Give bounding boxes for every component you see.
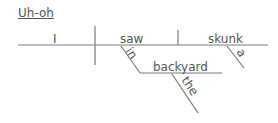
verb-word: saw <box>120 32 144 46</box>
prep-object-word: backyard <box>153 60 208 74</box>
prep-article-word: the <box>179 74 202 98</box>
subject-word: I <box>53 32 57 46</box>
preposition-word: in <box>123 45 141 62</box>
sentence-diagram: I saw skunk in backyard the a <box>0 0 278 123</box>
object-word: skunk <box>208 32 243 46</box>
